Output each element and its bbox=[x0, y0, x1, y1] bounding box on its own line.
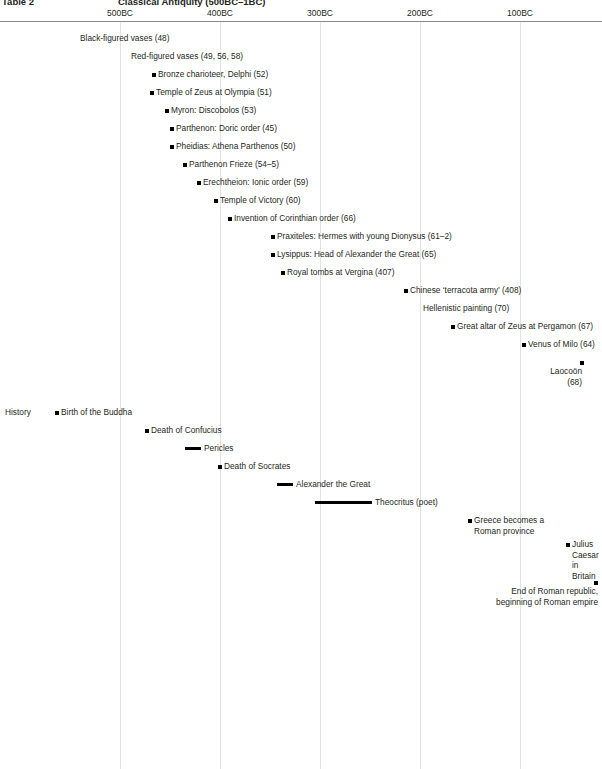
gridline-300BC bbox=[320, 22, 321, 769]
event-label: Parthenon Frieze (54–5) bbox=[189, 159, 279, 170]
event-marker-icon bbox=[150, 91, 154, 95]
chart-header: Table 2 Classical Antiquity (500BC–1BC) bbox=[0, 0, 602, 8]
event-duration-bar bbox=[315, 501, 372, 504]
event-marker-icon bbox=[214, 199, 218, 203]
event-marker-icon bbox=[594, 581, 598, 585]
axis-tick-200BC: 200BC bbox=[407, 8, 433, 18]
event-marker-icon bbox=[183, 163, 187, 167]
event-label: Temple of Victory (60) bbox=[220, 195, 301, 206]
event-label: Birth of the Buddha bbox=[61, 407, 132, 418]
axis-tick-100BC: 100BC bbox=[507, 8, 533, 18]
event-label: Venus of Milo (64) bbox=[528, 339, 595, 350]
event-label: Great altar of Zeus at Pergamon (67) bbox=[457, 321, 593, 332]
section-label-history: History bbox=[5, 407, 31, 417]
event-label: Black-figured vases (48) bbox=[80, 33, 169, 44]
event-label: Hellenistic painting (70) bbox=[423, 303, 509, 314]
gridline-500BC bbox=[120, 22, 121, 769]
event-label: JuliusCaesarin Britain bbox=[572, 539, 602, 581]
event-label: Pericles bbox=[204, 443, 234, 454]
event-marker-icon bbox=[55, 411, 59, 415]
event-marker-icon bbox=[404, 289, 408, 293]
event-marker-icon bbox=[197, 181, 201, 185]
event-marker-icon bbox=[145, 429, 149, 433]
axis-rule bbox=[0, 21, 602, 22]
axis-tick-400BC: 400BC bbox=[207, 8, 233, 18]
gridline-400BC bbox=[220, 22, 221, 769]
event-label: Red-figured vases (49, 56, 58) bbox=[131, 51, 243, 62]
event-marker-icon bbox=[228, 217, 232, 221]
event-label: Royal tombs at Vergina (407) bbox=[287, 267, 394, 278]
event-duration-bar bbox=[185, 447, 201, 450]
chart-title: Classical Antiquity (500BC–1BC) bbox=[118, 0, 265, 7]
event-marker-icon bbox=[170, 127, 174, 131]
event-marker-icon bbox=[218, 465, 222, 469]
event-label: Temple of Zeus at Olympia (51) bbox=[156, 87, 272, 98]
event-label: Erechtheion: Ionic order (59) bbox=[203, 177, 308, 188]
event-marker-icon bbox=[566, 543, 570, 547]
timeline-chart: Table 2 Classical Antiquity (500BC–1BC) … bbox=[0, 0, 602, 769]
event-label: Parthenon: Doric order (45) bbox=[176, 123, 277, 134]
event-label: Chinese ‘terracota army’ (408) bbox=[410, 285, 521, 296]
event-marker-icon bbox=[580, 361, 584, 365]
event-label: Alexander the Great bbox=[296, 479, 370, 490]
event-label: Greece becomes aRoman province bbox=[474, 515, 544, 536]
event-label: Invention of Corinthian order (66) bbox=[234, 213, 356, 224]
event-marker-icon bbox=[468, 519, 472, 523]
event-label: Death of Socrates bbox=[224, 461, 290, 472]
gridline-200BC bbox=[420, 22, 421, 769]
event-marker-icon bbox=[451, 325, 455, 329]
gridline-100BC bbox=[520, 22, 521, 769]
event-label: Death of Confucius bbox=[151, 425, 222, 436]
event-marker-icon bbox=[271, 253, 275, 257]
event-label: End of Roman republic,beginning of Roman… bbox=[496, 586, 598, 607]
table-number: Table 2 bbox=[2, 0, 34, 7]
event-marker-icon bbox=[522, 343, 526, 347]
event-label: Lysippus: Head of Alexander the Great (6… bbox=[277, 249, 436, 260]
event-duration-bar bbox=[277, 483, 293, 486]
event-marker-icon bbox=[170, 145, 174, 149]
event-label: Pheidias: Athena Parthenos (50) bbox=[176, 141, 295, 152]
event-label: Bronze charioteer, Delphi (52) bbox=[158, 69, 268, 80]
event-label: Laocoön(68) bbox=[550, 366, 582, 387]
event-marker-icon bbox=[152, 73, 156, 77]
event-marker-icon bbox=[165, 109, 169, 113]
axis-tick-500BC: 500BC bbox=[107, 8, 133, 18]
event-label: Myron: Discobolos (53) bbox=[171, 105, 256, 116]
event-label: Theocritus (poet) bbox=[375, 497, 438, 508]
event-marker-icon bbox=[271, 235, 275, 239]
axis-tick-300BC: 300BC bbox=[307, 8, 333, 18]
event-label: Praxiteles: Hermes with young Dionysus (… bbox=[277, 231, 452, 242]
event-marker-icon bbox=[281, 271, 285, 275]
